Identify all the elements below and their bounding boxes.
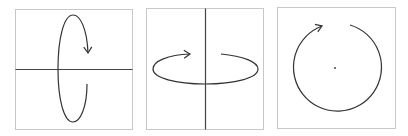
panel-horizontal-axis-rotation: [16, 10, 133, 130]
axis-center-dot: [334, 67, 336, 69]
panel-out-of-plane-rotation: [278, 8, 396, 129]
panel-vertical-axis-rotation: [147, 9, 264, 130]
panel-frame: [278, 8, 396, 129]
rotation-axes-diagram: [0, 0, 408, 136]
